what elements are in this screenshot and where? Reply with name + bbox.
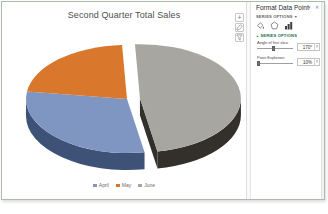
collapse-triangle-icon: ▲	[256, 34, 259, 38]
point-explosion-slider[interactable]	[257, 61, 293, 66]
tab-series-options[interactable]	[284, 21, 293, 30]
chart-title[interactable]: Second Quarter Total Sales	[2, 10, 246, 20]
legend-marker	[138, 184, 142, 187]
legend-item-may[interactable]: May	[116, 183, 131, 188]
tab-fill-line[interactable]	[256, 21, 265, 30]
series-options-dropdown[interactable]: SERIES OPTIONS ▼	[256, 14, 298, 19]
slider-thumb[interactable]	[272, 46, 275, 51]
pie-chart	[2, 22, 246, 182]
slider-thumb[interactable]	[257, 61, 260, 66]
plus-icon: +	[237, 14, 241, 21]
slider-track	[257, 63, 293, 64]
pane-title: Format Data Point	[256, 4, 309, 11]
series-options-section-label: SERIES OPTIONS	[260, 33, 297, 38]
chart-styles-button[interactable]	[235, 23, 244, 32]
funnel-icon	[236, 34, 243, 41]
chart-side-buttons: +	[235, 13, 244, 42]
chart-area: Second Quarter Total Sales AprilMayJune …	[2, 2, 246, 199]
legend-marker	[93, 184, 97, 187]
legend-label: April	[99, 183, 109, 188]
angle-of-first-slice-label: Angle of first slice	[257, 40, 288, 45]
spinner-icons[interactable]: ▲▼	[314, 59, 319, 65]
legend-label: June	[144, 183, 155, 188]
chevron-down-icon: ▼	[294, 15, 298, 19]
pane-tabs	[256, 21, 293, 30]
bar-chart-icon	[284, 21, 293, 30]
angle-of-first-slice-input[interactable]: 170° ▲▼	[297, 43, 320, 51]
tab-effects[interactable]	[270, 21, 279, 30]
effects-pentagon-icon	[270, 21, 279, 30]
screenshot-frame: Second Quarter Total Sales AprilMayJune …	[1, 1, 325, 200]
format-data-point-pane: Format Data Point ▾ ✕ SERIES OPTIONS ▼	[250, 2, 324, 199]
series-options-section-header[interactable]: ▲ SERIES OPTIONS	[256, 33, 297, 38]
paint-bucket-icon	[256, 21, 265, 30]
legend-item-june[interactable]: June	[138, 183, 155, 188]
legend-label: May	[122, 183, 131, 188]
close-icon[interactable]: ✕	[315, 4, 319, 10]
point-explosion-input[interactable]: 10% ▲▼	[297, 58, 320, 66]
pie-slice-may[interactable]	[27, 45, 127, 99]
legend-item-april[interactable]: April	[93, 183, 109, 188]
explosion-value: 10%	[298, 60, 314, 65]
spinner-icons[interactable]: ▲▼	[314, 44, 319, 50]
legend-marker	[116, 184, 120, 187]
brush-icon	[236, 24, 243, 31]
series-options-dropdown-label: SERIES OPTIONS	[256, 14, 293, 19]
pane-options-icon[interactable]: ▾	[308, 4, 311, 10]
pane-scrollbar[interactable]	[321, 2, 324, 199]
chart-legend[interactable]: AprilMayJune	[2, 183, 246, 188]
angle-value: 170°	[298, 45, 314, 50]
point-explosion-label: Point Explosion	[257, 55, 285, 60]
chart-elements-button[interactable]: +	[235, 13, 244, 22]
angle-of-first-slice-slider[interactable]	[257, 46, 293, 51]
chart-filters-button[interactable]	[235, 33, 244, 42]
